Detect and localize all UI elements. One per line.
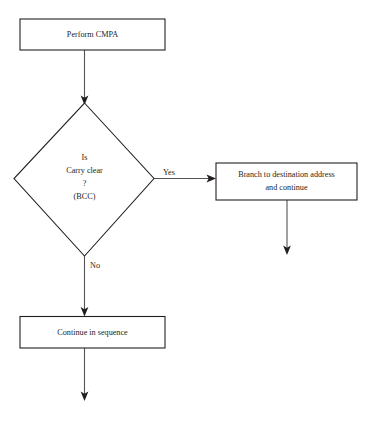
decision-line-1: Is [82, 153, 88, 162]
node-branch-destination: Branch to destination address and contin… [216, 163, 357, 200]
node-perform-cmpa-label: Perform CMPA [67, 30, 118, 39]
connector-no-to-continue [81, 256, 89, 317]
node-branch-destination-line-2: and continue [265, 183, 307, 192]
connector-continue-exit [81, 348, 89, 401]
node-continue-sequence: Continue in sequence [20, 317, 165, 349]
node-perform-cmpa: Perform CMPA [20, 19, 165, 50]
edge-label-no: No [90, 261, 100, 270]
connector-cmpa-to-decision [81, 50, 89, 105]
node-carry-clear-decision: Is Carry clear ? (BCC) [14, 103, 154, 256]
connector-branch-exit [283, 200, 291, 255]
node-branch-destination-line-1: Branch to destination address [238, 170, 335, 179]
flowchart-diagram: Perform CMPA Is Carry clear ? (BCC) Yes … [0, 0, 373, 422]
decision-line-3: ? [83, 179, 87, 188]
node-continue-sequence-label: Continue in sequence [57, 328, 128, 337]
decision-line-4: (BCC) [74, 192, 96, 201]
flowchart-canvas: Perform CMPA Is Carry clear ? (BCC) Yes … [0, 0, 373, 422]
edge-label-yes: Yes [163, 168, 175, 177]
decision-line-2: Carry clear [66, 166, 103, 175]
